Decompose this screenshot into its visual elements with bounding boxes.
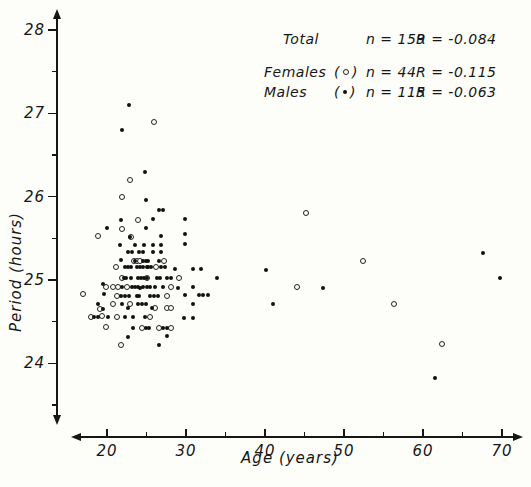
x-major-tick (343, 429, 344, 437)
data-point-female (80, 291, 86, 297)
data-point-male (151, 250, 155, 254)
legend-total-label: Total (283, 31, 319, 47)
data-point-male (126, 306, 130, 310)
data-point-male (165, 334, 169, 338)
data-point-male (498, 276, 502, 280)
x-minor-tick (304, 432, 305, 437)
y-major-tick (48, 113, 57, 114)
data-point-female (147, 314, 153, 320)
legend-paren: ( (334, 64, 340, 80)
legend-males-marker: () (334, 84, 356, 100)
y-tick-label: 25 (15, 271, 45, 289)
data-point-male (161, 208, 165, 212)
data-point-male (129, 265, 133, 269)
data-point-male (215, 276, 219, 280)
data-point-female (127, 177, 133, 183)
data-point-female (119, 194, 125, 200)
data-point-female (168, 305, 174, 311)
data-point-male (119, 258, 123, 262)
y-axis-top-arrow-icon (53, 9, 61, 19)
data-point-female (176, 275, 182, 281)
y-minor-tick (52, 404, 57, 405)
data-point-male (159, 243, 163, 247)
data-point-male (159, 250, 163, 254)
data-point-male (146, 259, 150, 263)
data-point-male (176, 286, 180, 290)
data-point-male (183, 232, 187, 236)
data-point-male (120, 128, 124, 132)
data-point-male (183, 293, 187, 297)
data-point-female (114, 314, 120, 320)
data-point-male (206, 293, 210, 297)
data-point-male (106, 315, 110, 319)
data-point-female (168, 284, 174, 290)
data-point-male (157, 343, 161, 347)
data-point-male (101, 307, 105, 311)
data-point-female (439, 341, 445, 347)
x-minor-tick (146, 432, 147, 437)
x-major-tick (185, 429, 186, 437)
filled-circle-icon (343, 90, 347, 94)
y-major-tick (48, 196, 57, 197)
data-point-male (191, 302, 195, 306)
data-point-male (481, 251, 485, 255)
data-point-female (151, 119, 157, 125)
legend-females-n: n = 44 (366, 64, 416, 80)
data-point-female (118, 342, 124, 348)
x-minor-tick (462, 432, 463, 437)
data-point-male (163, 265, 167, 269)
data-point-female (391, 301, 397, 307)
data-point-male (191, 267, 195, 271)
x-tick-label: 60 (403, 442, 443, 460)
data-point-male (96, 315, 100, 319)
x-major-tick (501, 429, 502, 437)
data-point-male (137, 294, 141, 298)
x-minor-tick (225, 432, 226, 437)
legend-females-r: R = -0.115 (416, 64, 497, 80)
y-minor-tick (52, 321, 57, 322)
x-axis-right-arrow-icon (513, 433, 523, 441)
data-point-male (191, 285, 195, 289)
data-point-female (164, 293, 170, 299)
data-point-male (151, 243, 155, 247)
y-axis-bottom-arrow-icon (53, 415, 61, 425)
data-point-male (141, 250, 145, 254)
y-major-tick (48, 279, 57, 280)
legend-males-r: R = -0.063 (416, 84, 497, 100)
data-point-male (101, 282, 105, 286)
data-point-male (96, 302, 100, 306)
x-tick-label: 20 (87, 442, 127, 460)
data-point-female (110, 301, 116, 307)
data-point-male (145, 276, 149, 280)
data-point-male (147, 326, 151, 330)
data-point-female (124, 284, 130, 290)
legend-paren: ) (352, 64, 358, 80)
data-point-male (157, 259, 161, 263)
data-point-male (131, 326, 135, 330)
x-tick-label: 30 (166, 442, 206, 460)
legend-females-marker: () (334, 64, 358, 80)
data-point-male (105, 226, 109, 230)
x-axis-left-arrow-icon (71, 433, 81, 441)
data-point-female (113, 264, 119, 270)
open-circle-icon (343, 69, 349, 75)
data-point-male (158, 276, 162, 280)
data-point-female (360, 258, 366, 264)
data-point-male (142, 243, 146, 247)
data-point-female (119, 226, 125, 232)
data-point-male (120, 302, 124, 306)
y-major-tick (48, 29, 57, 30)
data-point-male (197, 293, 201, 297)
x-tick-label: 70 (482, 442, 522, 460)
legend-paren: ) (350, 84, 356, 100)
data-point-male (133, 259, 137, 263)
data-point-female (99, 313, 105, 319)
y-tick-label: 24 (15, 354, 45, 372)
data-point-male (143, 170, 147, 174)
x-major-tick (422, 429, 423, 437)
data-point-male (151, 217, 155, 221)
legend-females-label: Females (264, 64, 326, 80)
data-point-male (152, 294, 156, 298)
data-point-male (129, 276, 133, 280)
legend-paren: ( (334, 84, 340, 100)
